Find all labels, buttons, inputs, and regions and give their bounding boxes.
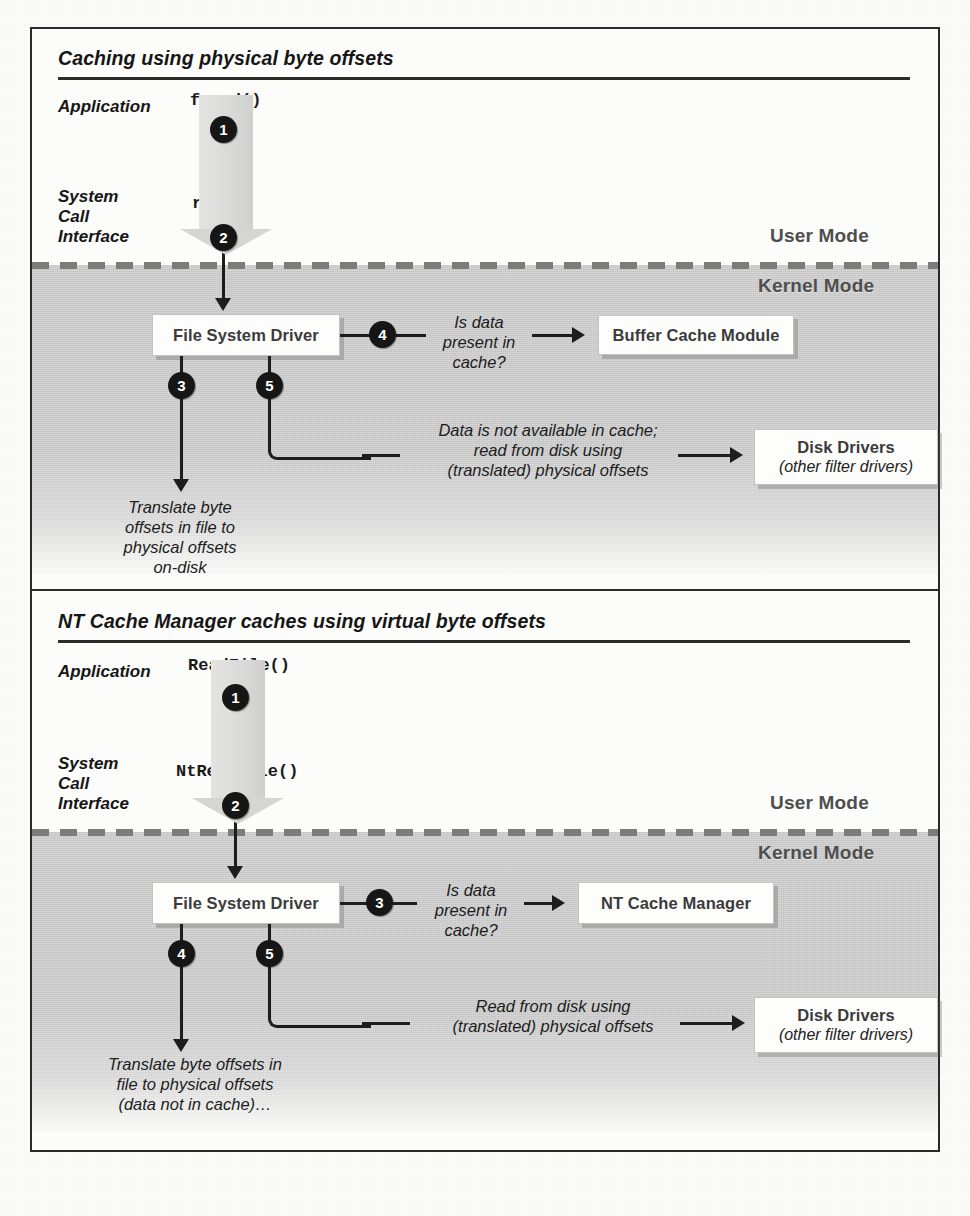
box-file-system-driver-top[interactable]: File System Driver: [152, 314, 340, 356]
step-badge-3-bottom: 3: [366, 889, 393, 916]
annotation-disk-read-bottom: Read from disk using (translated) physic…: [408, 996, 698, 1036]
annotation-translate-bottom: Translate byte offsets in file to physic…: [90, 1054, 300, 1114]
disk-read-arrow-line-bottom: [680, 1022, 734, 1025]
box-subtitle: (other filter drivers): [779, 1026, 913, 1044]
disk-read-arrow-line-top: [678, 454, 732, 457]
annotation-cache-query-top: Is data present in cache?: [424, 312, 534, 372]
user-mode-label-top: User Mode: [770, 225, 869, 247]
box-title: File System Driver: [173, 326, 319, 345]
title-rule-top: [58, 77, 910, 80]
annotation-cache-query-bottom: Is data present in cache?: [416, 880, 526, 940]
cache-query-line-c-bottom: [524, 902, 554, 905]
layer-label-application-top: Application: [58, 97, 151, 117]
box-disk-drivers-top[interactable]: Disk Drivers (other filter drivers): [754, 429, 938, 485]
flow-line-2-bottom: [234, 817, 237, 872]
panel-physical-offsets: Caching using physical byte offsets User…: [32, 29, 938, 589]
annotation-disk-read-top: Data is not available in cache; read fro…: [398, 420, 698, 480]
disk-read-arrowhead-top: [730, 447, 743, 463]
flow-arrowhead-2-top: [215, 298, 231, 311]
disk-read-line-h-top: [362, 454, 400, 457]
user-mode-label-bottom: User Mode: [770, 792, 869, 814]
kernel-mode-label-bottom: Kernel Mode: [758, 842, 874, 864]
step-badge-2-top: 2: [210, 224, 237, 251]
step-badge-5-top: 5: [256, 372, 283, 399]
box-nt-cache-manager-bottom[interactable]: NT Cache Manager: [578, 882, 774, 924]
layer-label-syscall-bottom: System Call Interface: [58, 754, 129, 814]
title-rule-bottom: [58, 640, 910, 643]
box-title: Buffer Cache Module: [613, 326, 780, 345]
panel-title-virtual: NT Cache Manager caches using virtual by…: [58, 610, 546, 633]
box-file-system-driver-bottom[interactable]: File System Driver: [152, 882, 340, 924]
box-title: File System Driver: [173, 894, 319, 913]
cache-query-line-b-bottom: [393, 902, 417, 905]
box-title: Disk Drivers: [797, 1006, 895, 1025]
box-buffer-cache-module-top[interactable]: Buffer Cache Module: [598, 315, 794, 355]
box-title: NT Cache Manager: [601, 894, 751, 913]
step-badge-2-bottom: 2: [222, 792, 249, 819]
disk-read-arrowhead-bottom: [732, 1015, 745, 1031]
layer-label-syscall-top: System Call Interface: [58, 187, 129, 247]
box-disk-drivers-bottom[interactable]: Disk Drivers (other filter drivers): [754, 997, 938, 1053]
translate-arrowhead-bottom: [173, 1039, 189, 1052]
cache-query-arrowhead-bottom: [552, 895, 565, 911]
kernel-mode-label-top: Kernel Mode: [758, 275, 874, 297]
step-badge-1-bottom: 1: [222, 684, 249, 711]
step-badge-4-top: 4: [369, 321, 396, 348]
mode-boundary-top: [32, 262, 938, 269]
box-subtitle: (other filter drivers): [779, 458, 913, 476]
flow-arrowhead-2-bottom: [227, 866, 243, 879]
cache-query-line-b-top: [396, 334, 426, 337]
panel-title-physical: Caching using physical byte offsets: [58, 47, 394, 70]
annotation-translate-top: Translate byte offsets in file to physic…: [100, 497, 260, 578]
disk-read-elbow-top: [268, 397, 371, 460]
step-badge-4-bottom: 4: [168, 940, 195, 967]
figure-frame: Caching using physical byte offsets User…: [30, 27, 940, 1152]
disk-read-line-h-bottom: [362, 1022, 410, 1025]
step-badge-1-top: 1: [210, 116, 237, 143]
panel-divider: [32, 589, 938, 591]
translate-arrowhead-top: [173, 479, 189, 492]
step-badge-5-bottom: 5: [256, 940, 283, 967]
cache-query-line-c-top: [532, 334, 574, 337]
layer-label-application-bottom: Application: [58, 662, 151, 682]
box-title: Disk Drivers: [797, 438, 895, 457]
flow-line-2-top: [222, 249, 225, 304]
cache-query-arrowhead-top: [572, 327, 585, 343]
step-badge-3-top: 3: [168, 372, 195, 399]
mode-boundary-bottom: [32, 829, 938, 836]
disk-read-elbow-bottom: [268, 965, 371, 1028]
panel-virtual-offsets: NT Cache Manager caches using virtual by…: [32, 592, 938, 1152]
